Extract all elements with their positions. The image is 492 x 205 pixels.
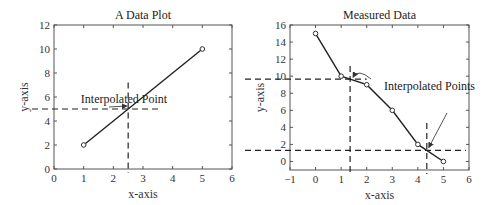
x-tick-label: 1 [338,173,344,185]
x-tick-label: 6 [229,172,235,184]
x-tick-label: 4 [415,173,421,185]
data-point-marker [441,159,446,164]
y-tick-label: 8 [281,87,287,99]
data-point-marker [81,143,86,148]
x-tick-label: 2 [364,173,370,185]
y-tick-label: 2 [281,138,287,150]
x-tick-label: 0 [313,173,319,185]
data-point-marker [364,82,369,87]
chart-title: A Data Plot [115,8,172,22]
chart-title: Measured Data [343,8,417,22]
data-point-marker [390,108,395,113]
annotation-arrow [429,113,447,147]
annotation-arrow [353,73,371,79]
y-axis-label: y-axis [253,83,267,113]
y-tick-label: 4 [45,115,51,127]
x-tick-label: 3 [390,173,396,185]
y-tick-label: 10 [275,70,287,82]
data-line [316,34,444,162]
x-tick-label: 1 [81,172,87,184]
x-axis-label: x-axis [128,187,158,201]
y-tick-label: 16 [275,19,287,31]
y-tick-label: 6 [281,104,287,116]
annotation-label: Interpolated Points [384,79,475,93]
annotation-arrow [109,106,127,107]
data-point-marker [416,142,421,147]
x-tick-label: 5 [200,172,206,184]
y-axis-label: y-axis [17,82,31,112]
x-tick-label: 3 [140,172,146,184]
x-axis-label: x-axis [365,188,395,202]
x-tick-label: 6 [466,173,472,185]
right-plot: −101234560246810121416Measured Datax-axi… [245,8,475,202]
x-tick-label: 0 [51,172,57,184]
x-tick-label: 5 [441,173,447,185]
y-tick-label: 8 [45,67,51,79]
figure: 0123456024681012A Data Plotx-axisy-axisI… [0,0,492,205]
y-tick-label: 2 [45,139,51,151]
y-tick-label: 14 [275,36,287,48]
y-tick-label: 0 [281,155,287,167]
y-tick-label: 12 [39,19,50,31]
y-tick-label: 0 [45,163,51,175]
data-point-marker [200,47,205,52]
y-tick-label: 12 [275,53,286,65]
x-tick-label: −1 [284,173,296,185]
y-tick-label: 6 [45,91,51,103]
y-tick-label: 4 [281,121,287,133]
left-plot: 0123456024681012A Data Plotx-axisy-axisI… [17,8,235,201]
y-tick-label: 10 [39,43,51,55]
data-point-marker [313,31,318,36]
data-point-marker [339,74,344,79]
annotation-label: Interpolated Point [81,92,168,106]
x-tick-label: 2 [111,172,117,184]
x-tick-label: 4 [170,172,176,184]
